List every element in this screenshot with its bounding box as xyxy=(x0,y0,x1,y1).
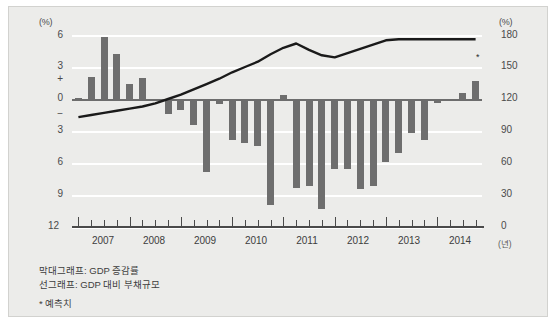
x-tick xyxy=(91,220,92,226)
x-tick xyxy=(258,220,259,226)
left-tick-n9: 9 xyxy=(37,188,63,199)
legend-line-description: 선그래프: GDP 대비 부채규모 xyxy=(39,278,160,292)
x-tick xyxy=(335,217,336,226)
x-tick xyxy=(194,220,195,226)
x-label-2009: 2009 xyxy=(185,235,225,246)
left-tick-0: 0 xyxy=(37,92,63,103)
left-axis-unit: (%) xyxy=(39,17,52,27)
left-tick-n3: 3 xyxy=(37,124,63,135)
x-tick xyxy=(271,220,272,226)
chart-card: (%) (%) 6 3 + 0 − 3 6 9 12 180 150 120 9… xyxy=(8,6,548,317)
x-tick xyxy=(399,220,400,226)
x-tick xyxy=(245,220,246,226)
minus-sign: − xyxy=(37,108,63,119)
x-tick xyxy=(104,220,105,226)
chart-legend-caption: 막대그래프: GDP 증감률 선그래프: GDP 대비 부채규모 * 예측치 xyxy=(39,264,160,311)
right-tick-120: 120 xyxy=(501,92,531,103)
plot-area xyxy=(72,35,482,227)
x-tick xyxy=(360,220,361,226)
line-series xyxy=(72,35,482,227)
x-tick xyxy=(412,220,413,226)
forecast-note: * 예측치 xyxy=(39,297,160,311)
right-tick-180: 180 xyxy=(501,29,531,40)
x-tick xyxy=(117,220,118,226)
plus-sign: + xyxy=(37,73,63,84)
left-tick-3: 3 xyxy=(37,60,63,71)
right-tick-60: 60 xyxy=(501,156,531,167)
x-tick xyxy=(232,217,233,226)
x-label-2011: 2011 xyxy=(287,235,327,246)
x-tick xyxy=(219,220,220,226)
x-tick xyxy=(373,220,374,226)
x-label-2012: 2012 xyxy=(338,235,378,246)
x-label-2013: 2013 xyxy=(389,235,429,246)
x-axis xyxy=(72,226,484,228)
x-tick xyxy=(309,220,310,226)
x-axis-unit: (년) xyxy=(498,237,512,249)
x-tick xyxy=(168,220,169,226)
x-tick xyxy=(130,217,131,226)
x-label-2007: 2007 xyxy=(83,235,123,246)
left-tick-n6: 6 xyxy=(37,156,63,167)
x-tick xyxy=(450,220,451,226)
right-tick-150: 150 xyxy=(501,60,531,71)
x-tick xyxy=(78,217,79,226)
left-tick-6: 6 xyxy=(37,29,63,40)
x-tick xyxy=(322,220,323,226)
legend-bar-description: 막대그래프: GDP 증감률 xyxy=(39,264,160,278)
x-tick xyxy=(207,220,208,226)
x-tick xyxy=(283,217,284,226)
right-tick-30: 30 xyxy=(501,188,531,199)
x-label-2010: 2010 xyxy=(236,235,276,246)
left-tick-n12: 12 xyxy=(33,220,59,231)
right-axis-unit: (%) xyxy=(499,17,512,27)
x-label-2008: 2008 xyxy=(134,235,174,246)
x-tick xyxy=(155,220,156,226)
x-tick xyxy=(181,217,182,226)
x-tick xyxy=(424,220,425,226)
x-tick xyxy=(476,220,477,226)
x-tick xyxy=(296,220,297,226)
x-tick xyxy=(142,220,143,226)
right-tick-90: 90 xyxy=(501,124,531,135)
forecast-marker-icon: * xyxy=(476,54,480,60)
x-tick xyxy=(437,217,438,226)
x-tick xyxy=(347,220,348,226)
x-tick xyxy=(386,217,387,226)
right-tick-0: 0 xyxy=(501,220,531,231)
x-label-2014: 2014 xyxy=(440,235,480,246)
x-tick xyxy=(463,220,464,226)
